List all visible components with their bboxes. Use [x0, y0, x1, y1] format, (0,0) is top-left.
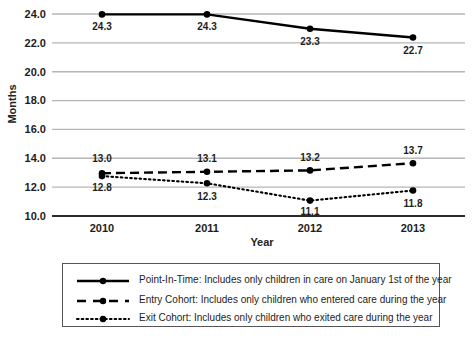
- x-tick-2010: 2010: [72, 222, 132, 234]
- dotted-line-marker-icon: [75, 310, 131, 328]
- legend-label-entry-cohort: Entry Cohort: Includes only children who…: [139, 294, 446, 305]
- y-tick-24: 24.0: [12, 8, 46, 20]
- data-label-exit-2012: 11.1: [287, 206, 333, 217]
- legend-row-point-in-time: Point-In-Time: Includes only children in…: [63, 272, 439, 290]
- data-label-entry-2012: 13.2: [287, 152, 333, 163]
- y-tick-22: 22.0: [12, 37, 46, 49]
- legend-label-exit-cohort: Exit Cohort: Includes only children who …: [139, 312, 433, 323]
- y-tick-20: 20.0: [12, 66, 46, 78]
- y-tick-10: 10.0: [12, 210, 46, 222]
- y-tick-14: 14.0: [12, 152, 46, 164]
- data-label-pit-2011: 24.3: [184, 21, 230, 32]
- series-point-in-time: [99, 11, 417, 41]
- x-tick-2013: 2013: [383, 222, 443, 234]
- data-label-exit-2011: 12.3: [184, 191, 230, 202]
- dashed-line-marker-icon: [75, 292, 131, 310]
- y-tick-18: 18.0: [12, 94, 46, 106]
- data-label-exit-2010: 12.8: [79, 182, 125, 193]
- y-tick-16: 16.0: [12, 123, 46, 135]
- data-label-entry-2010: 13.0: [79, 153, 125, 164]
- data-label-exit-2013: 11.8: [390, 198, 436, 209]
- line-chart: Months 24.0 22.0 20.0 18.0 16.0 14.0 12.…: [0, 0, 475, 339]
- series-exit-cohort: [99, 173, 417, 204]
- data-label-entry-2013: 13.7: [390, 145, 436, 156]
- series-entry-cohort: [99, 160, 417, 177]
- data-label-pit-2013: 22.7: [390, 45, 436, 56]
- x-tick-2011: 2011: [177, 222, 237, 234]
- legend-label-point-in-time: Point-In-Time: Includes only children in…: [139, 274, 452, 285]
- solid-line-marker-icon: [75, 272, 131, 290]
- data-label-pit-2010: 24.3: [79, 21, 125, 32]
- chart-legend: Point-In-Time: Includes only children in…: [62, 263, 440, 327]
- data-label-pit-2012: 23.3: [287, 36, 333, 47]
- x-axis-title: Year: [232, 236, 292, 248]
- x-tick-2012: 2012: [280, 222, 340, 234]
- y-tick-12: 12.0: [12, 181, 46, 193]
- data-label-entry-2011: 13.1: [184, 153, 230, 164]
- legend-row-exit-cohort: Exit Cohort: Includes only children who …: [63, 310, 439, 328]
- legend-row-entry-cohort: Entry Cohort: Includes only children who…: [63, 292, 439, 310]
